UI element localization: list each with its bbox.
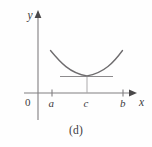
tick-label-c: c — [84, 97, 89, 109]
x-axis-label: x — [138, 96, 145, 108]
x-axis-arrowhead — [129, 90, 137, 97]
figure-container: y x 0 a c b (d) — [0, 0, 152, 147]
tick-label-b: b — [120, 97, 126, 109]
y-axis-label: y — [27, 9, 34, 22]
figure-caption: (d) — [0, 124, 152, 136]
y-axis-arrowhead — [35, 10, 42, 18]
origin-label: 0 — [25, 96, 31, 108]
tick-label-a: a — [49, 97, 55, 109]
function-curve — [51, 51, 123, 76]
